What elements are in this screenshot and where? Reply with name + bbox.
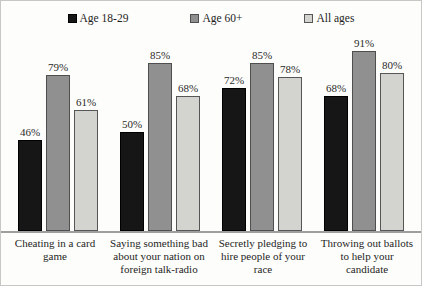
legend-swatch-icon bbox=[304, 14, 313, 23]
bar-column: 85% bbox=[250, 49, 274, 231]
legend-label: All ages bbox=[316, 12, 354, 24]
bar-all-ages bbox=[278, 77, 302, 231]
category-label: Secretly pledging to hire people of your… bbox=[211, 237, 315, 276]
legend-label: Age 18-29 bbox=[80, 12, 129, 24]
legend: Age 18-29Age 60+All ages bbox=[1, 10, 421, 26]
bar-age-18-29 bbox=[18, 140, 42, 231]
bar-value-label: 78% bbox=[280, 63, 300, 75]
legend-item: All ages bbox=[304, 12, 354, 24]
bar-all-ages bbox=[380, 73, 404, 231]
bar-value-label: 46% bbox=[20, 126, 40, 138]
bar-column: 85% bbox=[148, 49, 172, 231]
bar-value-label: 91% bbox=[354, 37, 374, 49]
bar-column: 80% bbox=[380, 59, 404, 231]
bar-column: 79% bbox=[46, 61, 70, 231]
bar-column: 50% bbox=[120, 118, 144, 231]
bar-all-ages bbox=[74, 110, 98, 231]
bar-value-label: 50% bbox=[122, 118, 142, 130]
category-label: Cheating in a card game bbox=[3, 237, 107, 276]
legend-swatch-icon bbox=[190, 14, 199, 23]
legend-item: Age 60+ bbox=[190, 12, 242, 24]
category-label: Saying something bad about your nation o… bbox=[107, 237, 211, 276]
bar-column: 61% bbox=[74, 96, 98, 231]
bar-group: 50%85%68% bbox=[109, 49, 211, 231]
bar-age-60- bbox=[352, 51, 376, 231]
category-label: Throwing out ballots to help your candid… bbox=[315, 237, 419, 276]
chart-frame: Age 18-29Age 60+All ages 46%79%61%50%85%… bbox=[0, 0, 422, 286]
bar-value-label: 80% bbox=[382, 59, 402, 71]
bar-age-18-29 bbox=[120, 132, 144, 231]
bar-column: 91% bbox=[352, 37, 376, 231]
bar-all-ages bbox=[176, 96, 200, 231]
bar-value-label: 79% bbox=[48, 61, 68, 73]
bar-value-label: 85% bbox=[150, 49, 170, 61]
legend-item: Age 18-29 bbox=[68, 12, 129, 24]
bar-value-label: 68% bbox=[178, 82, 198, 94]
bar-column: 46% bbox=[18, 126, 42, 231]
legend-label: Age 60+ bbox=[202, 12, 242, 24]
bar-column: 68% bbox=[324, 82, 348, 231]
bar-group: 72%85%78% bbox=[211, 49, 313, 231]
bar-value-label: 72% bbox=[224, 74, 244, 86]
bar-column: 72% bbox=[222, 74, 246, 231]
bar-column: 78% bbox=[278, 63, 302, 231]
bar-age-60- bbox=[250, 63, 274, 231]
bar-value-label: 85% bbox=[252, 49, 272, 61]
bar-value-label: 61% bbox=[76, 96, 96, 108]
bar-group: 46%79%61% bbox=[7, 61, 109, 231]
bar-age-18-29 bbox=[222, 88, 246, 231]
category-labels: Cheating in a card gameSaying something … bbox=[1, 233, 421, 276]
bar-age-60- bbox=[148, 63, 172, 231]
bar-age-18-29 bbox=[324, 96, 348, 231]
bar-value-label: 68% bbox=[326, 82, 346, 94]
bar-column: 68% bbox=[176, 82, 200, 231]
legend-swatch-icon bbox=[68, 14, 77, 23]
plot-area: 46%79%61%50%85%68%72%85%78%68%91%80% bbox=[1, 32, 421, 233]
bar-age-60- bbox=[46, 75, 70, 231]
bar-group: 68%91%80% bbox=[313, 37, 415, 231]
